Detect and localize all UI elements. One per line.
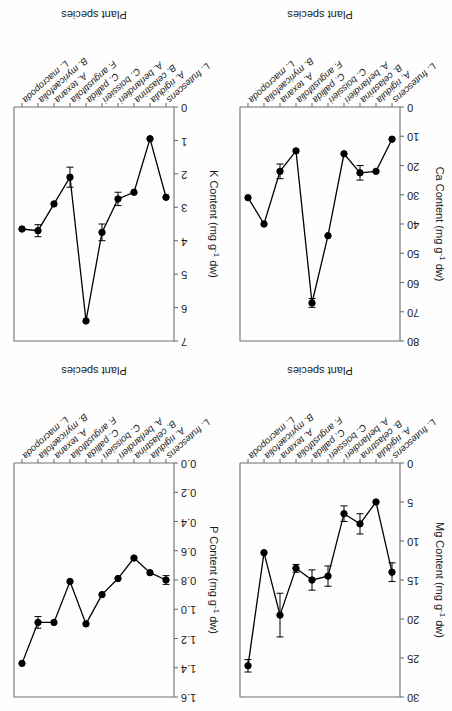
y-tick-label: 0 [407,102,413,114]
y-axis-title: K Content (mg g-1 dw) [208,170,221,278]
chart-panel-ca: 01020304050607080L. frutescensA. rigidul… [226,0,452,355]
data-point [245,663,251,669]
y-tick-label: 70 [407,307,419,319]
chart-panel-k: 01234567L. frutescensA. rigidulaB. celas… [0,0,226,355]
data-point [373,168,379,174]
y-tick-label: 1 [181,136,187,148]
data-point [67,174,73,180]
data-point [99,591,105,597]
series-line [248,139,392,303]
y-tick-label: 0.6 [181,546,196,558]
data-point [245,194,251,200]
data-point [19,226,25,232]
figure-panel-grid: 01020304050607080L. frutescensA. rigidul… [0,0,452,711]
series-line [248,502,392,666]
y-tick-label: 20 [407,614,419,626]
data-point [357,170,363,176]
data-point [373,499,379,505]
y-tick-label: 40 [407,219,419,231]
data-point [357,521,363,527]
x-axis-title: Plant species [287,9,353,21]
data-point [51,619,57,625]
y-tick-label: 15 [407,575,419,587]
data-point [277,612,283,618]
y-tick-label: 0.8 [181,575,196,587]
y-tick-label: 5 [407,497,413,509]
data-point [131,555,137,561]
data-point [51,201,57,207]
data-point [277,168,283,174]
y-tick-label: 0.4 [181,517,196,529]
plot-ca: 01020304050607080L. frutescensA. rigidul… [226,0,452,355]
plot-mg: 051015202530L. frutescensA. rigidulaB. c… [226,356,452,711]
data-point [261,550,267,556]
y-axis-title: P Content (mg g-1 dw) [208,526,221,634]
data-point [147,136,153,142]
y-tick-label: 2 [181,169,187,181]
y-tick-label: 4 [181,236,187,248]
data-point [389,569,395,575]
data-point [325,573,331,579]
y-tick-label: 80 [407,336,419,348]
y-tick-label: 0 [407,458,413,470]
data-point [115,196,121,202]
plot-k: 01234567L. frutescensA. rigidulaB. celas… [0,0,226,355]
y-tick-label: 1.2 [181,634,196,646]
y-tick-label: 10 [407,131,419,143]
data-point [309,577,315,583]
y-axis-title: Mg Content (mg g-1 dw) [434,522,447,638]
y-tick-label: 0.2 [181,487,196,499]
plot-p: 0.00.20.40.60.81.01.21.41.6L. frutescens… [0,356,226,711]
data-point [131,189,137,195]
data-point [163,577,169,583]
data-point [309,300,315,306]
y-tick-label: 1.6 [181,692,196,704]
x-axis-title: Plant species [61,365,127,377]
series-line [22,139,166,321]
series-line [22,558,166,663]
data-point [163,194,169,200]
y-tick-label: 30 [407,190,419,202]
y-tick-label: 3 [181,202,187,214]
y-tick-label: 1.4 [181,663,196,675]
data-point [83,621,89,627]
y-tick-label: 25 [407,653,419,665]
data-point [341,151,347,157]
y-tick-label: 7 [181,336,187,348]
data-point [293,148,299,154]
data-point [325,233,331,239]
y-tick-label: 30 [407,692,419,704]
data-point [99,229,105,235]
x-axis-title: Plant species [287,365,353,377]
y-tick-label: 10 [407,536,419,548]
y-tick-label: 20 [407,161,419,173]
data-point [293,565,299,571]
data-point [83,318,89,324]
y-tick-label: 0 [181,102,187,114]
y-tick-label: 60 [407,278,419,290]
y-axis-title: Ca Content (mg g-1 dw) [434,167,447,282]
data-point [261,221,267,227]
y-tick-label: 5 [181,269,187,281]
data-point [67,578,73,584]
data-point [147,569,153,575]
y-tick-label: 6 [181,303,187,315]
data-point [35,619,41,625]
x-axis-title: Plant species [61,9,127,21]
chart-panel-p: 0.00.20.40.60.81.01.21.41.6L. frutescens… [0,356,226,711]
chart-panel-mg: 051015202530L. frutescensA. rigidulaB. c… [226,356,452,711]
data-point [115,575,121,581]
y-tick-label: 0.0 [181,458,196,470]
y-tick-label: 50 [407,248,419,260]
data-point [19,660,25,666]
y-tick-label: 1.0 [181,604,196,616]
data-point [35,227,41,233]
data-point [389,136,395,142]
data-point [341,511,347,517]
